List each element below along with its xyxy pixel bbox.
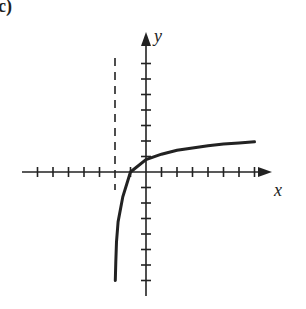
- panel-label: (c): [0, 0, 12, 17]
- x-axis-label: x: [273, 180, 282, 200]
- log-function-graph: (c) x y: [0, 0, 306, 309]
- x-axis-arrow-icon: [258, 167, 272, 177]
- y-axis-arrow-icon: [141, 32, 151, 46]
- function-curve: [115, 142, 254, 281]
- y-axis-label: y: [152, 26, 162, 46]
